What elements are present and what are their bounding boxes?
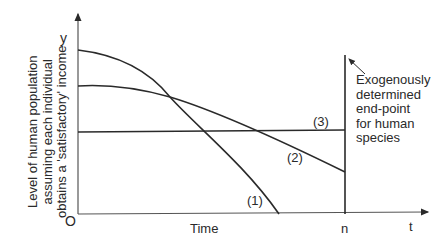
y-title-line-2: assuming each individual [41, 32, 56, 232]
curve-3 [78, 130, 345, 132]
annotation-line-4: for human [356, 117, 430, 132]
time-label: Time [190, 222, 218, 236]
annotation-line-1: Exogenously [356, 73, 430, 88]
t-label: t [409, 220, 413, 234]
curve-2-label: (2) [287, 151, 303, 165]
y-title-line-3: obtains a 'satisfactory' income [55, 32, 70, 232]
y-title-line-1: Level of human population [26, 32, 41, 232]
endpoint-annotation: Exogenously determined end-point for hum… [356, 73, 430, 146]
y-axis-title: Level of human population assuming each … [26, 32, 70, 232]
annotation-line-5: species [356, 131, 430, 146]
n-label: n [341, 222, 348, 236]
curve-2 [78, 86, 345, 172]
annotation-line-3: end-point [356, 102, 430, 117]
curve-3-label: (3) [313, 115, 329, 129]
x-axis [78, 212, 428, 214]
annotation-line-2: determined [356, 88, 430, 103]
curve-1-label: (1) [247, 194, 263, 208]
